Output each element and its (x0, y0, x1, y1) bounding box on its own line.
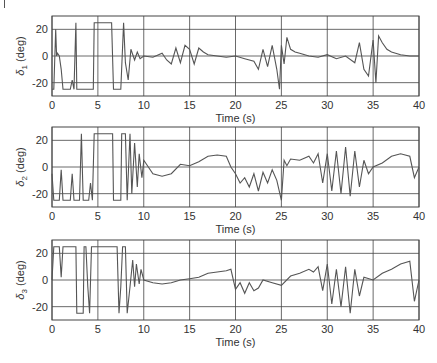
x-tick-label: 40 (413, 210, 425, 222)
x-tick-label: 15 (184, 99, 196, 111)
x-tick-label: 25 (275, 99, 287, 111)
x-tick-label: 10 (138, 99, 150, 111)
figure-three-panel-chart: 0510152025303540200-20Time (s)δ1 (deg)05… (0, 0, 437, 363)
x-tick-label: 0 (49, 210, 55, 222)
x-tick-label: 15 (184, 323, 196, 335)
x-tick-label: 40 (413, 99, 425, 111)
panel-1: 0510152025303540200-20Time (s)δ1 (deg) (14, 16, 425, 124)
x-tick-label: 35 (367, 99, 379, 111)
x-tick-label: 30 (321, 99, 333, 111)
x-tick-label: 35 (367, 210, 379, 222)
x-tick-label: 35 (367, 323, 379, 335)
y-axis-label: δ2 (deg) (14, 147, 29, 186)
x-axis-label: Time (s) (216, 336, 256, 348)
y-tick-label: -20 (32, 188, 48, 200)
x-axis-label: Time (s) (216, 112, 256, 124)
x-tick-label: 25 (275, 210, 287, 222)
x-tick-label: 10 (138, 323, 150, 335)
x-tick-label: 0 (49, 323, 55, 335)
y-axis-label: δ1 (deg) (14, 36, 29, 75)
y-tick-label: -20 (32, 77, 48, 89)
panel-2: 0510152025303540200-20Time (s)δ2 (deg) (14, 127, 425, 235)
x-tick-label: 0 (49, 99, 55, 111)
x-tick-label: 30 (321, 210, 333, 222)
x-tick-label: 30 (321, 323, 333, 335)
x-tick-label: 25 (275, 323, 287, 335)
x-tick-label: 15 (184, 210, 196, 222)
x-tick-label: 20 (229, 99, 241, 111)
y-tick-label: 20 (36, 23, 48, 35)
y-tick-label: 0 (42, 161, 48, 173)
x-tick-label: 20 (229, 323, 241, 335)
x-tick-label: 10 (138, 210, 150, 222)
x-tick-label: 5 (95, 99, 101, 111)
y-tick-label: 0 (42, 50, 48, 62)
x-tick-label: 40 (413, 323, 425, 335)
y-tick-label: 20 (36, 134, 48, 146)
y-axis-label: δ3 (deg) (14, 260, 29, 299)
x-tick-label: 20 (229, 210, 241, 222)
y-tick-label: 20 (36, 247, 48, 259)
y-tick-label: 0 (42, 274, 48, 286)
x-tick-label: 5 (95, 323, 101, 335)
x-tick-label: 5 (95, 210, 101, 222)
x-axis-label: Time (s) (216, 223, 256, 235)
panel-3: 0510152025303540200-20Time (s)δ3 (deg) (14, 240, 425, 348)
y-tick-label: -20 (32, 301, 48, 313)
